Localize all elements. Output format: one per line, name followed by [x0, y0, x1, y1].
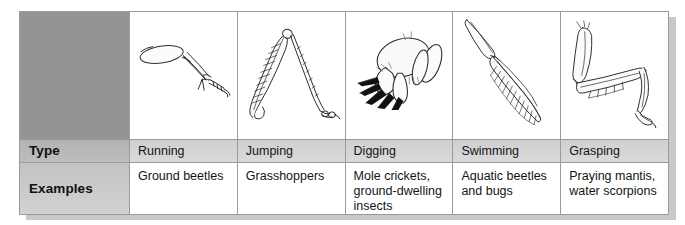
insect-leg-types-table: Type Running Jumping Digging Swimming Gr…: [19, 11, 669, 215]
examples-cell-jumping: Grasshoppers: [238, 163, 346, 214]
examples-cell-digging: Mole crickets, ground-dwelling insects: [346, 163, 454, 214]
type-cell-jumping: Jumping: [238, 140, 346, 162]
swimming-leg-illustration: [453, 12, 561, 139]
digging-leg-illustration: [346, 12, 454, 139]
row-header-type: Type: [20, 140, 130, 162]
jumping-leg-illustration: [238, 12, 346, 139]
examples-cell-grasping: Praying mantis, water scorpions: [561, 163, 668, 214]
grasping-leg-illustration: [561, 12, 668, 139]
type-cell-swimming: Swimming: [453, 140, 561, 162]
table-row-illustrations: [20, 12, 668, 139]
running-leg-illustration: [130, 12, 238, 139]
table-row-type: Type Running Jumping Digging Swimming Gr…: [20, 139, 668, 163]
table-row-examples: Examples Ground beetles Grasshoppers Mol…: [20, 163, 668, 214]
insect-leg-types-figure: Type Running Jumping Digging Swimming Gr…: [0, 0, 685, 225]
examples-cell-swimming: Aquatic beetles and bugs: [453, 163, 561, 214]
type-cell-grasping: Grasping: [561, 140, 668, 162]
corner-blank-cell: [20, 12, 130, 139]
type-cell-running: Running: [130, 140, 238, 162]
examples-cell-running: Ground beetles: [130, 163, 238, 214]
type-cell-digging: Digging: [346, 140, 454, 162]
row-header-examples: Examples: [20, 163, 130, 214]
